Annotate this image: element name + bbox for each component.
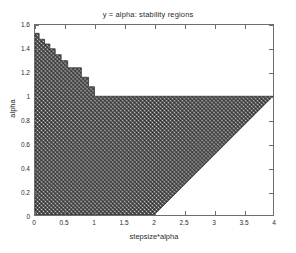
x-tick-6 xyxy=(215,211,216,215)
y-tick-label-0: 0 xyxy=(1,213,30,220)
x-tick-top-7 xyxy=(245,25,246,29)
y-tick-8 xyxy=(35,25,39,26)
x-tick-label-5: 2.5 xyxy=(179,219,188,226)
x-tick-0 xyxy=(35,211,36,215)
x-tick-top-5 xyxy=(185,25,186,29)
x-tick-label-7: 3.5 xyxy=(239,219,248,226)
x-tick-label-0: 0 xyxy=(32,219,36,226)
x-tick-3 xyxy=(125,211,126,215)
y-tick-right-3 xyxy=(269,145,273,146)
x-tick-top-3 xyxy=(125,25,126,29)
y-tick-2 xyxy=(35,169,39,170)
x-tick-4 xyxy=(155,211,156,215)
y-tick-label-6: 1.2 xyxy=(1,69,30,76)
y-tick-label-7: 1.4 xyxy=(1,45,30,52)
y-tick-label-1: 0.2 xyxy=(1,189,30,196)
figure-container: y = alpha: stability regions 00.511.5 xyxy=(0,0,296,253)
x-tick-label-1: 0.5 xyxy=(59,219,68,226)
stability-region-plot xyxy=(35,25,273,215)
stable-region-shape xyxy=(35,33,273,215)
x-tick-label-4: 2 xyxy=(152,219,156,226)
x-axis-label: stepsize*alpha xyxy=(34,232,274,241)
y-tick-right-2 xyxy=(269,169,273,170)
x-tick-top-6 xyxy=(215,25,216,29)
x-tick-top-1 xyxy=(65,25,66,29)
y-axis-label: alpha xyxy=(8,79,17,139)
y-tick-3 xyxy=(35,145,39,146)
chart-title: y = alpha: stability regions xyxy=(0,10,296,19)
y-tick-right-8 xyxy=(269,25,273,26)
x-tick-label-6: 3 xyxy=(212,219,216,226)
y-tick-label-8: 1.6 xyxy=(1,21,30,28)
y-tick-right-7 xyxy=(269,49,273,50)
x-tick-top-2 xyxy=(95,25,96,29)
x-tick-2 xyxy=(95,211,96,215)
y-tick-7 xyxy=(35,49,39,50)
y-tick-right-6 xyxy=(269,73,273,74)
y-tick-1 xyxy=(35,193,39,194)
x-tick-7 xyxy=(245,211,246,215)
x-tick-label-2: 1 xyxy=(92,219,96,226)
x-tick-top-4 xyxy=(155,25,156,29)
x-tick-label-8: 4 xyxy=(272,219,276,226)
y-tick-5 xyxy=(35,97,39,98)
y-tick-right-5 xyxy=(269,97,273,98)
y-tick-right-4 xyxy=(269,121,273,122)
x-tick-label-3: 1.5 xyxy=(119,219,128,226)
y-tick-label-3: 0.6 xyxy=(1,141,30,148)
y-tick-right-1 xyxy=(269,193,273,194)
x-tick-5 xyxy=(185,211,186,215)
y-tick-label-2: 0.4 xyxy=(1,165,30,172)
y-tick-4 xyxy=(35,121,39,122)
y-tick-6 xyxy=(35,73,39,74)
x-tick-1 xyxy=(65,211,66,215)
plot-area xyxy=(34,24,274,216)
